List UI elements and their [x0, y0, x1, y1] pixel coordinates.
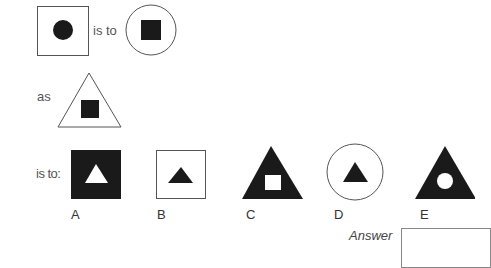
- option-e-figure[interactable]: [415, 146, 475, 199]
- option-c-figure[interactable]: [242, 146, 303, 199]
- premise-triangle-with-square: [58, 73, 121, 127]
- option-b-figure[interactable]: [157, 151, 206, 199]
- connector-as: as: [37, 90, 51, 103]
- option-d-figure[interactable]: [327, 144, 383, 200]
- filled-triangle: [242, 146, 303, 199]
- option-b-label: B: [157, 208, 166, 221]
- connector-is-to-colon: is to:: [36, 167, 60, 180]
- option-a-label: A: [71, 208, 80, 221]
- answer-input-box[interactable]: [401, 228, 491, 268]
- filled-square: [141, 20, 161, 40]
- filled-triangle: [415, 146, 475, 199]
- premise-square-with-circle: [38, 7, 89, 56]
- option-a-figure[interactable]: [71, 150, 121, 199]
- premise-circle-with-square: [126, 5, 176, 55]
- white-square: [265, 175, 281, 190]
- option-e-label: E: [420, 208, 429, 221]
- answer-label: Answer: [349, 229, 392, 242]
- option-d-label: D: [334, 208, 343, 221]
- filled-square: [81, 100, 99, 118]
- option-c-label: C: [246, 208, 255, 221]
- filled-circle: [53, 20, 73, 40]
- connector-is-to: is to: [93, 24, 117, 37]
- white-circle: [437, 173, 453, 189]
